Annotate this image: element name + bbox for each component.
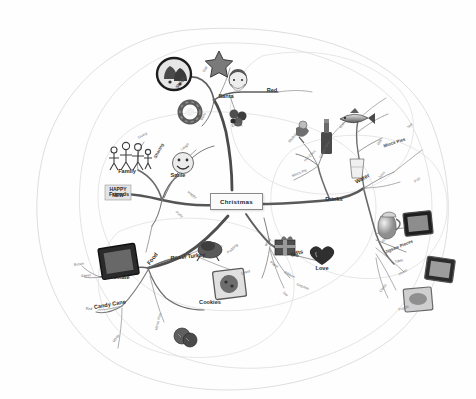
node-label-love[interactable]: Love [315,265,328,271]
central-node[interactable]: Christmas [210,193,263,210]
fish-icon [340,108,375,124]
node-label-sweet[interactable]: Sweet [81,273,91,278]
node-label-chocolate[interactable]: Chocolate [102,274,129,280]
mince-pies-icon [174,328,197,347]
node-label-family[interactable]: Family [118,168,136,174]
heart-icon [310,246,334,265]
photo-frame-2 [424,256,455,283]
node-label-friends[interactable]: Friends [109,191,129,197]
node-label-smile[interactable]: Smile [171,172,186,178]
node-label-cookies[interactable]: Cookies [199,299,221,305]
jug-icon [378,212,400,239]
node-label-drinks[interactable]: Drinks [325,196,342,202]
clipart-icons: HAPPY NEW [98,51,456,347]
photo-frame-1 [403,211,433,237]
node-label-red[interactable]: Red [86,307,93,311]
node-label-red[interactable]: Red [267,87,278,93]
santa-icon [229,69,247,91]
smiley-icon [173,153,194,174]
family-icon [109,142,152,170]
node-label-santa[interactable]: Santa [218,93,233,99]
